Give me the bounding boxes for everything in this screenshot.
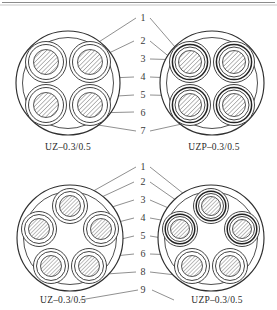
leader-number-5: 5 xyxy=(141,89,146,100)
leader-number-7: 7 xyxy=(141,125,146,136)
core xyxy=(53,189,88,224)
core xyxy=(84,212,119,247)
core xyxy=(214,42,255,83)
core xyxy=(22,212,57,247)
leader-number-3: 3 xyxy=(141,53,146,64)
core xyxy=(225,212,260,247)
core xyxy=(26,42,67,83)
cable-label-bottom-right: UZP–0.3/0.5 xyxy=(191,295,242,305)
leader-number-4: 4 xyxy=(141,71,146,82)
leader-number-3: 3 xyxy=(141,194,146,205)
core xyxy=(163,212,198,247)
leader-number-2: 2 xyxy=(141,35,146,46)
leader-number-4: 4 xyxy=(141,212,146,223)
core xyxy=(214,85,255,126)
leader-number-8: 8 xyxy=(141,266,146,277)
core xyxy=(194,189,229,224)
cable-cross-section-figure: 1 2 3 4 5 6 7 xyxy=(0,0,277,310)
core xyxy=(70,42,111,83)
core xyxy=(26,85,67,126)
cable-label-bottom-left: UZ–0.3/0.5 xyxy=(40,295,86,305)
leader-number-6: 6 xyxy=(141,107,146,118)
core xyxy=(72,249,107,284)
core xyxy=(34,249,69,284)
leader-number-6: 6 xyxy=(141,248,146,259)
cable-label-top-left: UZ–0.3/0.5 xyxy=(45,142,91,152)
core xyxy=(70,85,111,126)
leader-number-2: 2 xyxy=(141,176,146,187)
leader-number-5: 5 xyxy=(141,230,146,241)
leader-number-1: 1 xyxy=(141,12,146,23)
leader-number-1: 1 xyxy=(141,161,146,172)
cable-label-top-right: UZP–0.3/0.5 xyxy=(188,142,239,152)
core xyxy=(175,249,210,284)
core xyxy=(213,249,248,284)
core xyxy=(170,42,211,83)
cable-diagram-svg: 1 2 3 4 5 6 7 xyxy=(0,0,277,310)
leader-number-9: 9 xyxy=(141,284,146,295)
core xyxy=(170,85,211,126)
